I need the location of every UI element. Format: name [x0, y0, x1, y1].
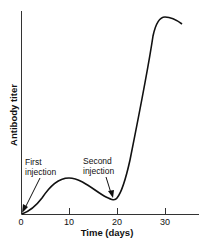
x-axis-title: Time (days)	[81, 227, 134, 238]
y-axis-title: Antibody titer	[8, 84, 19, 146]
x-tick-label-20: 20	[112, 217, 122, 227]
second-injection-label-line2: injection	[83, 166, 114, 176]
second-injection-arrowhead-icon	[108, 190, 114, 198]
x-tick-label-10: 10	[64, 217, 74, 227]
second-injection-label-line1: Second	[83, 156, 112, 166]
antibody-titer-curve	[22, 17, 182, 214]
first-injection-label-line2: injection	[25, 167, 56, 177]
x-tick-label-30: 30	[160, 217, 170, 227]
first-injection-label-line1: First	[25, 157, 42, 167]
second-injection-arrow	[106, 177, 111, 193]
x-tick-label-0: 0	[18, 217, 23, 227]
chart-canvas: 0 10 20 30 Time (days) Antibody titer Fi…	[0, 0, 208, 250]
